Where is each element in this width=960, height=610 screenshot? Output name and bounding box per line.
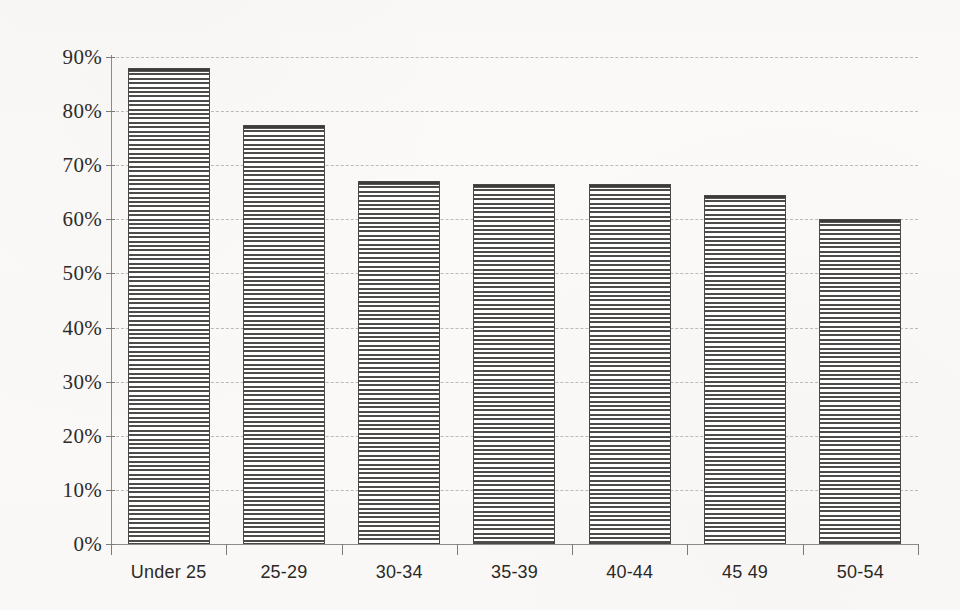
y-tick-label: 10% — [63, 477, 102, 502]
y-tick-label: 60% — [63, 207, 102, 232]
bar-top-edge — [705, 196, 785, 199]
x-axis-label-25-29: 25-29 — [260, 562, 307, 583]
x-axis-label-under-25: Under 25 — [131, 562, 207, 583]
x-tick-mark — [111, 544, 112, 555]
y-tick-label: 30% — [63, 369, 102, 394]
y-tick-label: 40% — [63, 315, 102, 340]
bar[interactable] — [589, 184, 671, 544]
bar[interactable] — [704, 195, 786, 544]
x-axis-label-50-54: 50-54 — [837, 562, 884, 583]
bar-top-edge — [359, 182, 439, 185]
x-axis-label-35-39: 35-39 — [491, 562, 538, 583]
plot-area: 0%10%20%30%40%50%60%70%80%90% — [111, 57, 918, 544]
bar[interactable] — [819, 219, 901, 544]
bar[interactable] — [243, 125, 325, 544]
x-tick-mark — [572, 544, 573, 555]
bar[interactable] — [358, 181, 440, 544]
bar[interactable] — [473, 184, 555, 544]
x-tick-mark — [342, 544, 343, 555]
bars-layer — [111, 57, 918, 544]
bar-slot — [803, 57, 918, 544]
bar-top-edge — [474, 185, 554, 188]
bar-slot — [226, 57, 341, 544]
bar[interactable] — [128, 68, 210, 544]
x-tick-mark — [687, 544, 688, 555]
bar-top-edge — [820, 220, 900, 223]
y-tick-label: 80% — [63, 99, 102, 124]
y-tick-label: 0% — [73, 532, 102, 557]
bar-chart: 0%10%20%30%40%50%60%70%80%90% Under 2525… — [0, 0, 960, 610]
bar-top-edge — [244, 126, 324, 129]
x-axis-label-40-44: 40-44 — [606, 562, 653, 583]
y-tick-label: 70% — [63, 153, 102, 178]
x-tick-mark — [457, 544, 458, 555]
y-tick-label: 90% — [63, 45, 102, 70]
x-tick-mark — [803, 544, 804, 555]
bar-slot — [342, 57, 457, 544]
x-axis-label-45-49: 45 49 — [722, 562, 768, 583]
bar-slot — [111, 57, 226, 544]
x-axis-line — [111, 544, 919, 545]
bar-slot — [572, 57, 687, 544]
x-tick-mark — [226, 544, 227, 555]
x-axis-label-30-34: 30-34 — [376, 562, 423, 583]
y-tick-label: 20% — [63, 423, 102, 448]
bar-top-edge — [590, 185, 670, 188]
x-tick-mark — [918, 544, 919, 555]
bar-slot — [457, 57, 572, 544]
y-tick-label: 50% — [63, 261, 102, 286]
bar-top-edge — [129, 69, 209, 72]
bar-slot — [687, 57, 802, 544]
